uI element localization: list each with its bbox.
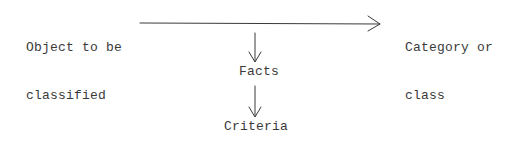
diagram-arrows: [0, 0, 525, 142]
arrow-object-to-category: [140, 23, 380, 24]
